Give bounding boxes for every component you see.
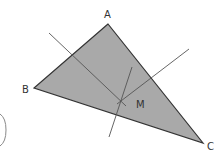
triangle-abc: [34, 24, 203, 143]
vertex-label-b: B: [22, 84, 29, 95]
vertex-label-a: A: [104, 9, 111, 20]
vertex-label-c: C: [207, 141, 214, 152]
intersection-label-m: M: [136, 99, 145, 110]
geometry-diagram: A B C M: [0, 0, 219, 163]
left-bracket: [0, 114, 6, 146]
